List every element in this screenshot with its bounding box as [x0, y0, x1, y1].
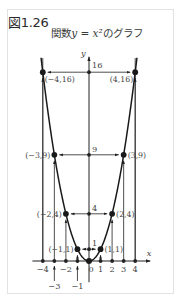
y-axis-point [87, 70, 91, 74]
y-tick-label: 9 [92, 144, 97, 154]
point-label: (−2,4) [37, 210, 62, 219]
point-label: (1,1) [105, 245, 123, 254]
x-axis-tick-dot [41, 259, 45, 263]
point-label: (−3,9) [25, 151, 50, 160]
x-axis-tick-dot [52, 259, 56, 263]
x-tick-label: −2 [60, 264, 72, 274]
y-axis-point [87, 212, 91, 216]
x-tick-label: 3 [121, 264, 126, 274]
curve-point [75, 246, 81, 252]
x-axis-tick-dot [76, 259, 80, 263]
curve-point [63, 211, 69, 217]
point-label: (2,4) [116, 210, 134, 219]
curve-point [51, 152, 57, 158]
y-axis-point [87, 247, 91, 251]
y-tick-label: 16 [92, 60, 102, 70]
y-axis-point [87, 153, 91, 157]
x-axis-tick-dot [133, 259, 137, 263]
x-tick-label: 1 [98, 264, 103, 274]
point-label: (3,9) [128, 151, 146, 160]
parabola-plot: xy(−4,16)(4,16)(−3,9)(3,9)(−2,4)(2,4)(−1… [0, 0, 188, 303]
curve-point [121, 152, 127, 158]
point-label: (−1,1) [48, 245, 73, 254]
curve-point [98, 246, 104, 252]
x-axis-tick-dot [99, 259, 103, 263]
x-tick-label: −3 [48, 281, 60, 291]
curve-point [109, 211, 115, 217]
y-tick-label: 4 [92, 203, 97, 213]
x-tick-label: −4 [37, 264, 49, 274]
x-tick-label: −1 [71, 281, 83, 291]
x-axis-label: x [147, 248, 152, 258]
x-tick-label: 4 [133, 264, 138, 274]
point-label: (−4,16) [45, 75, 75, 84]
y-axis-label: y [80, 48, 86, 58]
x-tick-label: 0 [88, 264, 93, 274]
point-label: (4,16) [110, 75, 133, 84]
x-axis-tick-dot [110, 259, 114, 263]
plot-layer: xy(−4,16)(4,16)(−3,9)(3,9)(−2,4)(2,4)(−1… [25, 48, 151, 291]
x-tick-label: 2 [109, 264, 114, 274]
x-axis-tick-dot [122, 259, 126, 263]
y-tick-label: 1 [92, 238, 97, 248]
x-axis-tick-dot [64, 259, 68, 263]
